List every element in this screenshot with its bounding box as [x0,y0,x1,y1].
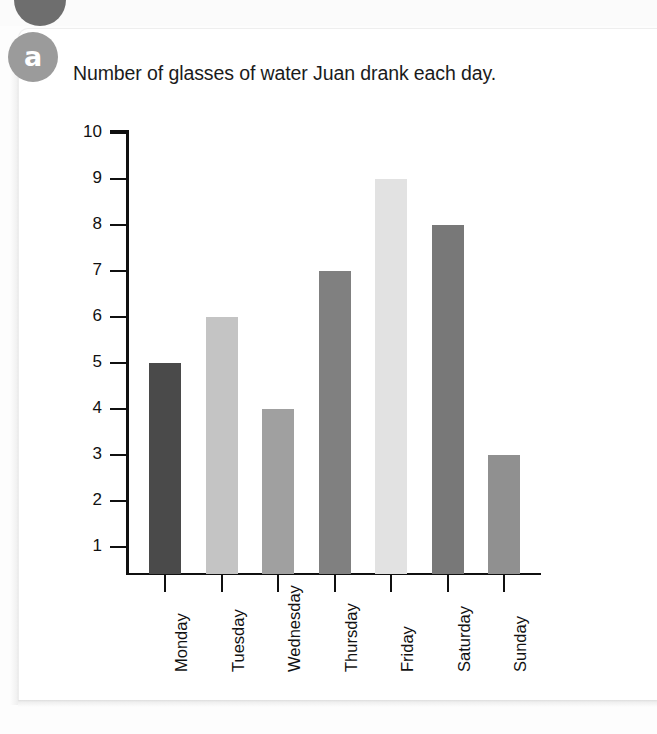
bar-chart: 12345678910 MondayTuesdayWednesdayThursd… [0,0,657,734]
y-axis-tick [110,316,127,318]
bar-thursday [319,271,351,574]
bar-sunday [488,455,520,574]
bar-tuesday [206,317,238,574]
y-axis-label: 10 [68,122,102,142]
y-axis-tick [110,270,127,272]
y-axis-tick [110,454,127,456]
y-axis-tick [110,546,127,548]
y-axis-tick [110,132,127,134]
y-axis-label: 3 [68,444,102,464]
y-axis-tick [110,500,127,502]
x-axis-tick [221,575,223,592]
x-axis-label-friday: Friday [398,626,417,672]
x-axis-tick [277,575,279,592]
y-axis-tick [110,178,127,180]
x-axis-tick [503,575,505,592]
x-axis-label-wednesday: Wednesday [285,585,304,672]
x-axis-label-sunday: Sunday [511,616,530,672]
y-axis-tick [110,408,127,410]
y-axis-label: 7 [68,260,102,280]
bar-saturday [432,225,464,574]
y-axis-label: 4 [68,398,102,418]
worksheet-page: a Number of glasses of water Juan drank … [0,0,657,734]
bar-monday [149,363,181,574]
y-axis-label: 8 [68,214,102,234]
x-axis-label-saturday: Saturday [455,606,474,672]
y-axis-tick [110,224,127,226]
bar-wednesday [262,409,294,574]
x-axis-tick [334,575,336,592]
bar-friday [375,179,407,574]
x-axis-tick [447,575,449,592]
y-axis-label: 6 [68,306,102,326]
y-axis-label: 1 [68,536,102,556]
x-axis-label-thursday: Thursday [342,603,361,672]
y-axis-tick [110,362,127,364]
x-axis-tick [164,575,166,592]
x-axis-tick [390,575,392,592]
x-axis-label-monday: Monday [172,613,191,672]
y-axis-label: 2 [68,490,102,510]
x-axis-label-tuesday: Tuesday [229,609,248,672]
y-axis-label: 5 [68,352,102,372]
y-axis-label: 9 [68,168,102,188]
